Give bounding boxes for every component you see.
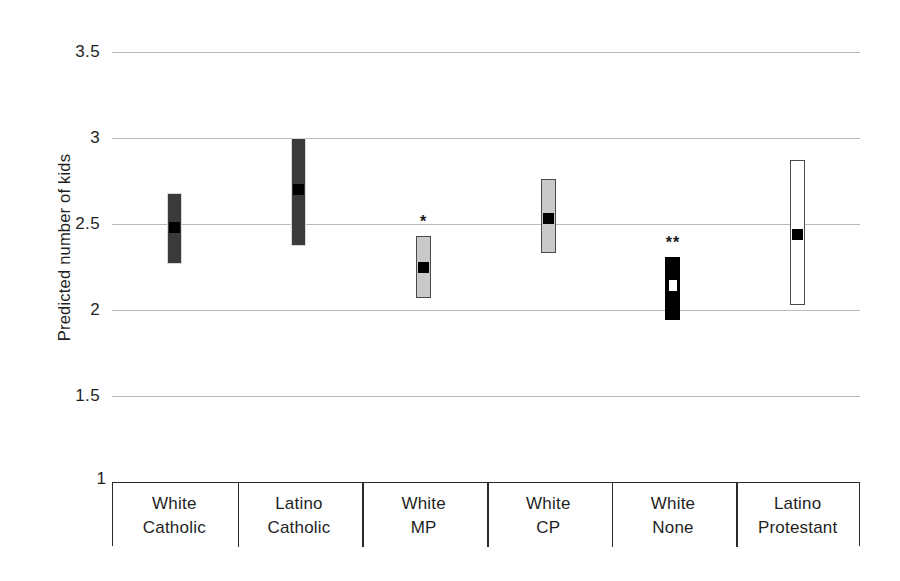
point-estimate-marker <box>169 222 180 233</box>
category-label-line1: White <box>361 492 486 516</box>
category-label-line2: None <box>611 516 736 540</box>
category-label-line1: White <box>486 492 611 516</box>
category-label-white-catholic: WhiteCatholic <box>112 492 237 540</box>
y-tick-label-3: 3 <box>40 128 100 148</box>
category-label-white-none: WhiteNone <box>611 492 736 540</box>
plot-area: *** <box>112 52 860 482</box>
category-label-line1: Latino <box>735 492 860 516</box>
predicted-number-of-kids-chart: Predicted number of kids 3.532.521.5 ***… <box>0 0 900 581</box>
category-label-latino-catholic: LatinoCatholic <box>237 492 362 540</box>
point-estimate-marker <box>293 184 304 195</box>
significance-marker: ** <box>666 235 680 251</box>
point-estimate-marker <box>418 262 429 273</box>
bar-group-white-mp[interactable]: * <box>361 52 486 482</box>
bar-group-latino-catholic[interactable] <box>237 52 362 482</box>
category-label-line2: Catholic <box>237 516 362 540</box>
bar-group-latino-protestant[interactable] <box>735 52 860 482</box>
category-label-line2: CP <box>486 516 611 540</box>
category-label-line1: Latino <box>237 492 362 516</box>
point-estimate-marker <box>543 213 554 224</box>
category-label-line1: White <box>611 492 736 516</box>
point-estimate-marker <box>669 280 677 291</box>
bar-group-white-cp[interactable] <box>486 52 611 482</box>
significance-marker: * <box>420 214 427 230</box>
axis-origin-label: 1 <box>86 469 106 489</box>
category-label-line1: White <box>112 492 237 516</box>
category-label-latino-protestant: LatinoProtestant <box>735 492 860 540</box>
category-label-line2: MP <box>361 516 486 540</box>
category-label-white-mp: WhiteMP <box>361 492 486 540</box>
y-tick-label-1.5: 1.5 <box>40 386 100 406</box>
category-label-white-cp: WhiteCP <box>486 492 611 540</box>
y-tick-label-2: 2 <box>40 300 100 320</box>
bar-group-white-catholic[interactable] <box>112 52 237 482</box>
category-label-line2: Protestant <box>735 516 860 540</box>
y-tick-label-2.5: 2.5 <box>40 214 100 234</box>
bar-group-white-none[interactable]: ** <box>611 52 736 482</box>
y-tick-label-3.5: 3.5 <box>40 42 100 62</box>
point-estimate-marker <box>792 229 803 240</box>
category-label-line2: Catholic <box>112 516 237 540</box>
